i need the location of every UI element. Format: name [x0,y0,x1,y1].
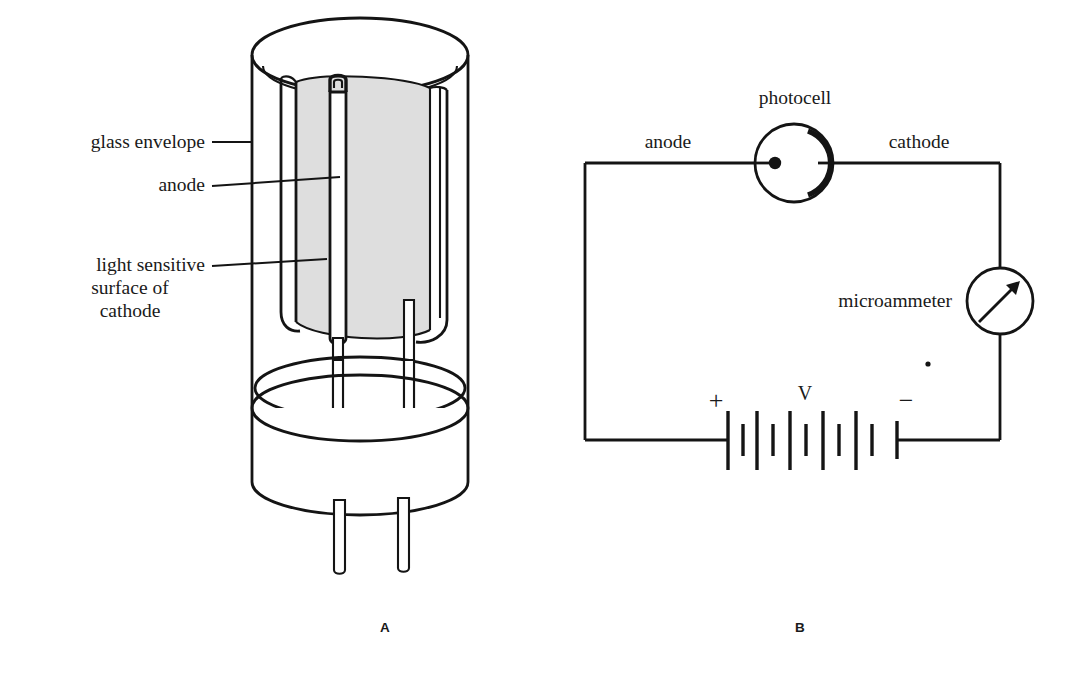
contact-pin-right [398,498,409,572]
label-circuit-cathode: cathode [889,131,950,152]
label-light-sensitive-line3: cathode [100,300,161,321]
label-photocell: photocell [759,87,832,108]
panel-a-caption-letter: A [380,620,390,635]
battery-positive-sign: + [709,386,724,415]
battery-negative-sign: − [899,386,914,415]
label-glass-envelope: glass envelope [91,131,205,152]
panel-b-caption-letter: B [795,620,805,635]
label-light-sensitive-line2: surface of [91,277,169,298]
anode-rod-body [330,92,346,344]
light-sensitive-cathode-surface [281,76,447,342]
label-circuit-anode: anode [645,131,692,152]
microammeter-symbol [967,268,1033,334]
label-anode: anode [158,174,205,195]
stray-print-dot [925,361,930,366]
socket-body-fill [252,408,468,518]
battery-voltage-label: V [798,382,813,404]
contact-pin-left [334,500,345,574]
label-microammeter: microammeter [838,290,952,311]
photocell-anode-dot [769,157,781,169]
photocell-figure: glass envelope anode light sensitive sur… [0,0,1075,673]
figure-root: glass envelope anode light sensitive sur… [0,0,1075,673]
photocell-symbol [755,124,833,202]
figure-background [0,0,1075,673]
label-light-sensitive-line1: light sensitive [96,254,205,275]
